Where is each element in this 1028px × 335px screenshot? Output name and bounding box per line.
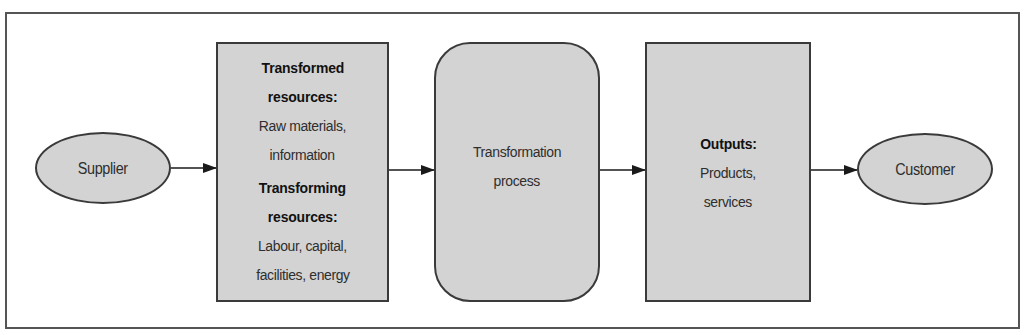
transforming-resources-items-1: Labour, capital,	[258, 231, 347, 260]
transforming-resources-heading: Transforming	[259, 173, 346, 202]
transforming-resources-items-2: facilities, energy	[256, 260, 350, 289]
outputs-items-2: services	[704, 187, 752, 216]
outputs-heading: Outputs:	[700, 129, 757, 158]
transformed-resources-items-1: Raw materials,	[259, 111, 346, 140]
customer-label: Customer	[895, 155, 955, 184]
transformed-resources-heading-2: resources:	[268, 82, 338, 111]
process-label-1: Transformation	[473, 137, 561, 166]
process-label-2: process	[494, 166, 540, 195]
supplier-label: Supplier	[78, 154, 128, 183]
outputs-node: Outputs: Products, services	[645, 42, 811, 302]
transformation-process-node: Transformation process	[434, 42, 600, 302]
inputs-node: Transformed resources: Raw materials, in…	[216, 42, 389, 302]
transformed-resources-heading: Transformed	[261, 53, 344, 82]
supplier-node: Supplier	[35, 132, 171, 204]
transforming-resources-heading-2: resources:	[268, 202, 338, 231]
outputs-items-1: Products,	[700, 158, 756, 187]
transformed-resources-items-2: information	[270, 140, 335, 169]
customer-node: Customer	[857, 133, 993, 205]
